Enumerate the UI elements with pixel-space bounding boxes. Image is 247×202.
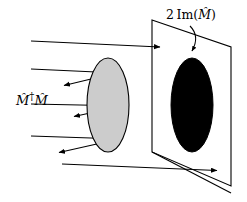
figure-root: M̂†M̂ 2Im(M̂)	[0, 0, 247, 202]
label-two-im-m-symbol: M̂	[198, 7, 211, 22]
label-two-im-m-function: Im	[176, 7, 193, 22]
label-m-dagger-m-symbol: M̂	[16, 93, 29, 108]
gray-ellipse	[87, 58, 129, 152]
label-two-im-m-close-paren: )	[211, 7, 216, 22]
label-two-im-m: 2Im(M̂)	[166, 9, 216, 22]
label-m-dagger-m-symbol2: M̂	[34, 93, 47, 108]
label-two-im-m-coefficient: 2	[166, 7, 174, 22]
label-m-dagger-m: M̂†M̂	[16, 92, 48, 107]
ray-top	[31, 41, 160, 47]
black-ellipse	[171, 58, 213, 152]
